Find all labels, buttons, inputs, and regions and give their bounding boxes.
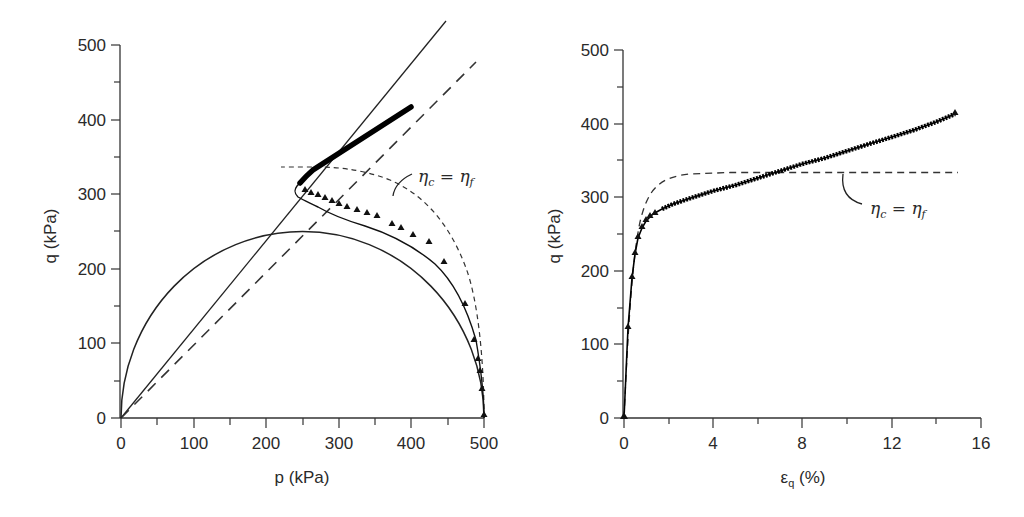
right-xtick-12: 12: [883, 434, 902, 453]
right-x-axis-label: εq (%): [781, 468, 826, 489]
right-measured-markers: [620, 109, 959, 419]
right-y-ticks: [614, 50, 623, 418]
left-ytick-0: 0: [97, 409, 106, 428]
right-ytick-500: 500: [581, 41, 609, 60]
right-annotation-label: ηc = ηf: [870, 198, 928, 221]
left-stress-path-markers: [302, 186, 488, 417]
left-dashed-line: [121, 62, 476, 418]
right-chart: 0 100 200 300 400 500 0 4 8 12 16 εq (%)…: [545, 41, 990, 489]
left-chart: 0 100 200 300 400 500 0 100 200 300 400 …: [41, 21, 498, 487]
left-xtick-500: 500: [470, 434, 498, 453]
left-ytick-400: 400: [78, 111, 106, 130]
right-ytick-100: 100: [581, 335, 609, 354]
right-x-ticks: [624, 418, 981, 428]
right-measured-curve-markers-band: [662, 114, 955, 209]
left-ytick-100: 100: [78, 334, 106, 353]
left-annotation-label: ηc = ηf: [418, 166, 476, 189]
left-x-axis-label: p (kPa): [275, 468, 330, 487]
left-stress-path: [295, 183, 484, 418]
right-xtick-8: 8: [797, 434, 806, 453]
right-xtick-16: 16: [972, 434, 991, 453]
left-ytick-500: 500: [78, 36, 106, 55]
right-ytick-400: 400: [581, 115, 609, 134]
left-y-axis-label: q (kPa): [41, 209, 60, 264]
left-ytick-200: 200: [78, 260, 106, 279]
right-ytick-200: 200: [581, 262, 609, 281]
left-annotation-leader: [393, 174, 412, 196]
left-eta-curve: [281, 167, 484, 418]
left-x-ticks: [121, 418, 484, 428]
left-xtick-300: 300: [325, 434, 353, 453]
right-xtick-4: 4: [708, 434, 717, 453]
left-xtick-400: 400: [397, 434, 425, 453]
right-measured-curve: [624, 114, 955, 418]
left-xtick-0: 0: [116, 434, 125, 453]
left-xtick-200: 200: [252, 434, 280, 453]
left-ytick-300: 300: [78, 185, 106, 204]
right-annotation-leader: [843, 174, 862, 204]
left-critical-state-line: [121, 21, 446, 418]
right-ytick-0: 0: [600, 409, 609, 428]
right-xtick-0: 0: [619, 434, 628, 453]
left-y-ticks: [111, 45, 120, 418]
figure: 0 100 200 300 400 500 0 100 200 300 400 …: [0, 0, 1024, 517]
left-xtick-100: 100: [180, 434, 208, 453]
right-ytick-300: 300: [581, 188, 609, 207]
right-y-axis-label: q (kPa): [545, 209, 564, 264]
